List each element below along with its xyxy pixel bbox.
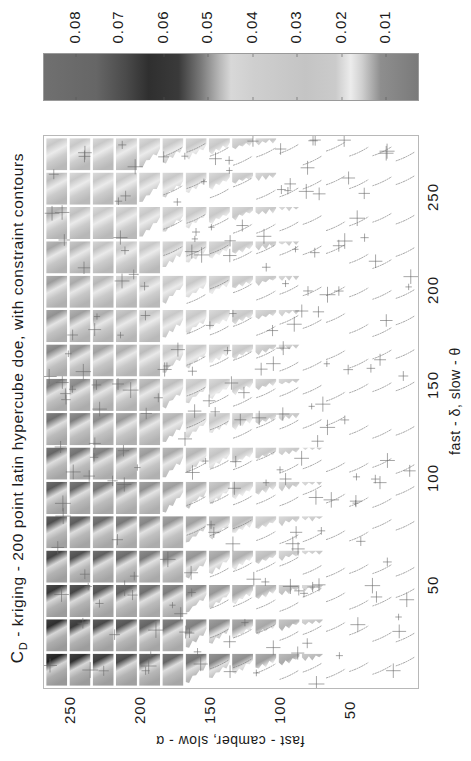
panel: [326, 142, 345, 151]
doe-point-marker: [252, 411, 266, 425]
doe-point-marker: [360, 234, 368, 242]
doe-point-marker: [380, 314, 393, 327]
panel: [116, 207, 137, 239]
colorbar-gradient: [44, 54, 418, 100]
panel: [139, 551, 160, 583]
panel: [162, 413, 183, 445]
constraint-contour: [396, 426, 415, 435]
panel: [302, 447, 323, 479]
panel: [69, 173, 90, 205]
y-tick-label: 150: [201, 690, 219, 730]
panel: [139, 344, 160, 376]
constraint-contour: [303, 246, 322, 255]
panel: [116, 585, 137, 617]
panel: [116, 413, 137, 445]
panel: [186, 173, 207, 205]
panel: [349, 564, 368, 573]
panel: [69, 379, 90, 411]
panel: [396, 464, 415, 473]
doe-point-marker: [290, 526, 302, 538]
panel: [373, 665, 392, 674]
panel: [396, 289, 415, 298]
panel: [139, 310, 160, 342]
panel: [326, 313, 345, 322]
panel: [279, 447, 300, 479]
title-rest: - kriging - 200 point latin hypercube do…: [9, 153, 26, 642]
panel: [186, 516, 207, 548]
panel: [186, 413, 207, 445]
constraint-contour: [349, 359, 368, 368]
doe-point-marker: [310, 248, 320, 258]
doe-point-marker: [342, 172, 355, 185]
panel: [93, 413, 114, 445]
panel: [373, 177, 392, 186]
colorbar-tick-label: 0.05: [198, 5, 216, 49]
panel: [139, 241, 160, 273]
panel: [255, 654, 276, 686]
panel: [255, 173, 276, 205]
doe-point-marker: [374, 354, 386, 366]
constraint-contour: [326, 351, 345, 360]
constraint-contour: [326, 176, 345, 185]
panel: [302, 551, 323, 583]
panel: [46, 551, 67, 583]
panel: [373, 350, 392, 359]
constraint-contour: [280, 315, 299, 324]
doe-point-marker: [398, 371, 408, 381]
panel: [396, 152, 415, 161]
doe-point-marker: [313, 578, 326, 591]
panel: [303, 215, 322, 224]
doe-point-marker: [324, 492, 340, 508]
constraint-contour: [349, 564, 368, 573]
colorbar-tick-label: 0.06: [154, 5, 172, 49]
constraint-contour: [303, 533, 322, 542]
panel: [232, 173, 253, 205]
panel: [302, 516, 323, 548]
panel: [93, 173, 114, 205]
doe-point-marker: [262, 263, 271, 272]
panel: [209, 585, 230, 617]
panel: [139, 619, 160, 651]
panel: [93, 276, 114, 308]
doe-point-marker: [312, 435, 324, 447]
doe-point-marker: [403, 269, 418, 284]
panel: [139, 207, 160, 239]
panel: [116, 310, 137, 342]
panel: [116, 482, 137, 514]
x-tick-label: 100: [424, 458, 442, 498]
panel: [326, 222, 345, 231]
x-tick-label: 150: [424, 365, 442, 405]
panel: [349, 288, 368, 297]
constraint-contour: [256, 562, 275, 571]
panel: [209, 654, 230, 686]
constraint-contour: [326, 568, 345, 577]
panel: [93, 551, 114, 583]
panel: [373, 328, 392, 337]
panel: [93, 310, 114, 342]
panel: [280, 188, 299, 197]
plot-area: [43, 135, 419, 689]
panel: [93, 379, 114, 411]
x-tick-label: 50: [424, 565, 442, 605]
panel: [396, 486, 415, 495]
panel: [303, 361, 322, 370]
panel: [186, 310, 207, 342]
panel: [349, 463, 368, 472]
panel: [186, 138, 207, 170]
panel: [396, 215, 415, 224]
panel: [303, 419, 322, 428]
panel: [46, 276, 67, 308]
x-tick-label: 250: [424, 177, 442, 217]
constraint-contour: [326, 417, 345, 426]
panel: [46, 482, 67, 514]
panel: [279, 482, 300, 514]
doe-point-marker: [173, 198, 181, 206]
constraint-contour: [396, 589, 415, 598]
panel: [69, 447, 90, 479]
panel: [46, 654, 67, 686]
panel: [116, 138, 137, 170]
panel: [93, 344, 114, 376]
constraint-contour: [280, 420, 299, 429]
panel: [209, 413, 230, 445]
constraint-contour: [280, 285, 299, 294]
